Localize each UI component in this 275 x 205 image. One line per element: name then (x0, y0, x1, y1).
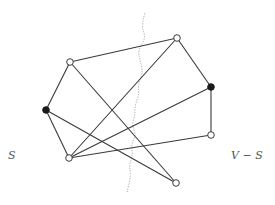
node-A-open (67, 59, 74, 66)
node-B-open (174, 35, 181, 42)
node-F-open (173, 180, 180, 187)
graph-cut-diagram (0, 0, 275, 205)
edge-A-F (70, 62, 176, 183)
nodes-group (43, 35, 215, 187)
node-D-filled (208, 84, 215, 91)
cut-curve (127, 13, 145, 192)
edge-C-F (46, 110, 176, 183)
set-label-v-minus-s: V − S (231, 149, 263, 162)
edge-A-B (70, 38, 177, 62)
edge-D-E (69, 87, 211, 158)
edge-C-E (46, 110, 69, 158)
node-C-filled (43, 107, 50, 114)
edge-B-E (69, 38, 177, 158)
edge-A-C (46, 62, 70, 110)
edge-B-D (177, 38, 211, 87)
edge-E-G (69, 135, 211, 158)
node-E-open (66, 155, 73, 162)
node-G-open (208, 132, 215, 139)
set-label-s: S (8, 149, 16, 162)
